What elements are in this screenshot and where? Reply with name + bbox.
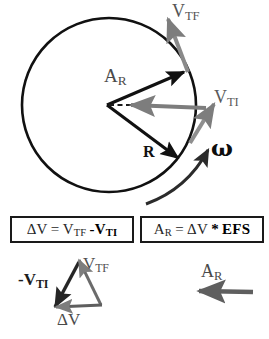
equation-delta-v-sub-tf: TF xyxy=(74,227,87,238)
equation-text-delta-v: ΔV = VTF -VTI xyxy=(27,221,118,238)
equation-a-r-operator: * xyxy=(211,221,219,237)
label-neg-v-ti-triangle: -VTI xyxy=(18,271,48,288)
label-omega: ω xyxy=(211,136,233,159)
label-a-r-result-subscript: R xyxy=(214,269,222,283)
equation-delta-v-neg-vti: -VTI xyxy=(90,221,118,237)
result-ar-arrow xyxy=(199,291,253,292)
triangle-edge-deltav xyxy=(56,305,102,307)
label-a-r-result: AR xyxy=(201,262,222,280)
label-v-tf-triangle: VTF xyxy=(83,255,109,272)
equation-box-a-r: AR = ΔV * EFS xyxy=(140,216,264,243)
equation-delta-v-sub-ti: TI xyxy=(106,227,118,238)
label-v-ti-circle-subscript: TI xyxy=(227,95,238,109)
triangle-edge-neg-vti xyxy=(55,262,79,307)
label-a-r-circle: AR xyxy=(104,66,126,85)
label-radius-r: R xyxy=(143,144,155,160)
equation-a-r-efs: EFS xyxy=(222,221,250,237)
label-v-tf-circle: VTF xyxy=(172,2,199,20)
delta-v-arrow-in-circle xyxy=(131,105,206,108)
label-v-tf-circle-subscript: TF xyxy=(185,9,199,23)
label-a-r-circle-subscript: R xyxy=(118,73,127,88)
label-delta-v-triangle: ΔV xyxy=(57,311,80,328)
equation-text-a-r: AR = ΔV * EFS xyxy=(154,221,250,238)
label-v-tf-triangle-subscript: TF xyxy=(95,261,108,275)
equation-a-r-sub-r: R xyxy=(165,227,172,238)
equation-box-delta-v: ΔV = VTF -VTI xyxy=(10,216,134,243)
physics-diagram-figure: VTF AR VTI R ω ΔV = VTF -VTI AR = ΔV * E… xyxy=(0,0,269,339)
label-neg-v-ti-triangle-subscript: TI xyxy=(36,277,48,291)
label-v-ti-circle: VTI xyxy=(214,88,238,106)
